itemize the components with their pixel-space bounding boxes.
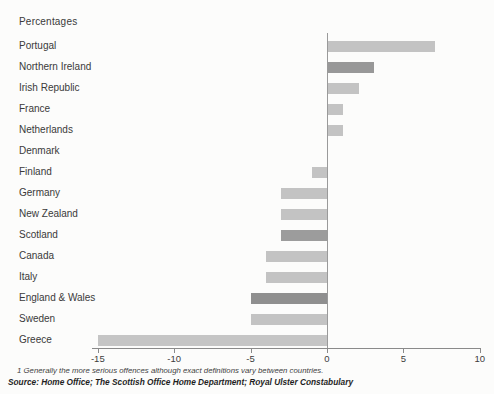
- x-axis-tick-label-5: 5: [401, 353, 406, 364]
- bar-england-wales: [251, 293, 327, 304]
- chart-source: Source: Home Office; The Scottish Office…: [8, 377, 353, 387]
- category-label-italy: Italy: [19, 271, 37, 283]
- bar-greece: [98, 335, 327, 346]
- chart-footnote: 1 Generally the more serious offences al…: [17, 366, 323, 375]
- x-axis-tick-label--5: -5: [246, 353, 254, 364]
- bar-irish-republic: [328, 83, 359, 94]
- chart-title: Percentages: [19, 16, 77, 27]
- bar-northern-ireland: [328, 62, 374, 73]
- category-label-scotland: Scotland: [19, 229, 58, 241]
- category-label-greece: Greece: [19, 334, 52, 346]
- bar-france: [328, 104, 343, 115]
- x-axis-tick-label--15: -15: [91, 353, 105, 364]
- category-label-finland: Finland: [19, 166, 52, 178]
- x-axis-line: [92, 348, 481, 349]
- bar-finland: [312, 167, 327, 178]
- zero-baseline: [327, 33, 328, 348]
- category-label-sweden: Sweden: [19, 313, 55, 325]
- bar-italy: [266, 272, 327, 283]
- bar-netherlands: [328, 125, 343, 136]
- bar-portugal: [328, 41, 435, 52]
- category-label-portugal: Portugal: [19, 40, 56, 52]
- x-axis-tick-label-10: 10: [475, 353, 486, 364]
- bar-sweden: [251, 314, 327, 325]
- category-label-england-wales: England & Wales: [19, 292, 95, 304]
- bar-germany: [281, 188, 327, 199]
- category-label-germany: Germany: [19, 187, 60, 199]
- category-label-netherlands: Netherlands: [19, 124, 73, 136]
- scanned-chart-page: Percentages PortugalNorthern IrelandIris…: [0, 0, 494, 394]
- category-label-new-zealand: New Zealand: [19, 208, 78, 220]
- category-label-canada: Canada: [19, 250, 54, 262]
- category-label-northern-ireland: Northern Ireland: [19, 61, 91, 73]
- category-label-irish-republic: Irish Republic: [19, 82, 80, 94]
- bar-new-zealand: [281, 209, 327, 220]
- bar-canada: [266, 251, 327, 262]
- category-label-denmark: Denmark: [19, 145, 60, 157]
- x-axis-tick-label--10: -10: [167, 353, 181, 364]
- bar-scotland: [281, 230, 327, 241]
- x-axis-tick-label-0: 0: [324, 353, 329, 364]
- category-label-france: France: [19, 103, 50, 115]
